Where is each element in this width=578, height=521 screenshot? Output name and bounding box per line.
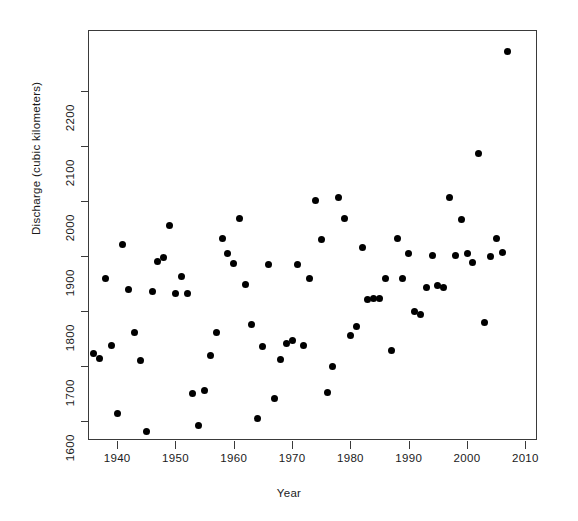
y-tick — [81, 366, 88, 367]
y-tick — [81, 146, 88, 147]
y-tick-label: 1900 — [64, 269, 76, 296]
y-tick-label: 1600 — [64, 434, 76, 461]
x-axis-title: Year — [0, 487, 578, 499]
y-tick — [81, 421, 88, 422]
y-tick-label: 2100 — [64, 159, 76, 186]
x-tick-label: 1950 — [162, 452, 189, 464]
x-tick — [117, 441, 118, 449]
x-tick — [467, 441, 468, 449]
y-tick — [81, 91, 88, 92]
x-tick-label: 1970 — [279, 452, 306, 464]
x-tick — [175, 441, 176, 449]
y-axis-title: Discharge (cubic kilometers) — [30, 82, 42, 235]
y-tick — [81, 311, 88, 312]
x-tick-label: 1980 — [337, 452, 364, 464]
x-tick-label: 1960 — [220, 452, 247, 464]
x-tick — [409, 441, 410, 449]
x-tick-label: 2000 — [454, 452, 481, 464]
y-tick-label: 2000 — [64, 214, 76, 241]
x-tick-label: 1940 — [104, 452, 131, 464]
x-tick — [525, 441, 526, 449]
y-tick — [81, 256, 88, 257]
y-tick-label: 2200 — [64, 104, 76, 131]
scatter-plot-figure: 1600170018001900200021002200 19401950196… — [0, 0, 578, 521]
y-tick-label: 1700 — [64, 379, 76, 406]
x-tick — [350, 441, 351, 449]
y-tick — [81, 201, 88, 202]
x-tick — [234, 441, 235, 449]
plot-frame — [88, 30, 537, 440]
x-tick-label: 2010 — [512, 452, 539, 464]
x-tick — [292, 441, 293, 449]
y-tick-label: 1800 — [64, 324, 76, 351]
x-tick-label: 1990 — [395, 452, 422, 464]
